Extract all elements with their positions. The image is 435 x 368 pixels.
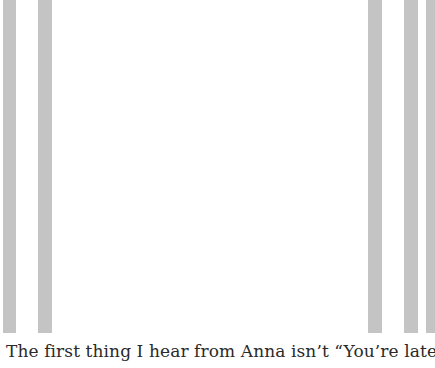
- stripe-bar: [368, 0, 382, 333]
- stripe-bar: [404, 0, 418, 333]
- stripe-bar: [38, 0, 52, 333]
- stripe-bar: [426, 0, 435, 333]
- stripe-bar: [3, 0, 16, 333]
- decorative-stripes-figure: [0, 0, 435, 334]
- body-text-line: The first thing I hear from Anna isn’t “…: [6, 341, 435, 361]
